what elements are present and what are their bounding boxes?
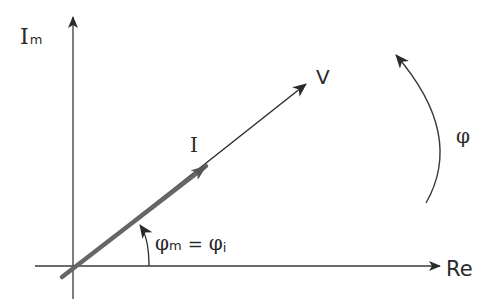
rotation-label: φ [456,124,470,148]
phase-angle-label: φm=φi [155,231,226,255]
voltage-label: V [316,65,330,89]
current-label: I [190,133,198,157]
real-axis-label: Re [446,257,473,281]
phase-angle-arc [140,225,149,266]
imaginary-axis-label: Im [20,24,42,49]
phasor-diagram: Im Re V I φ φm=φi [0,0,492,299]
rotation-arc [396,55,440,203]
current-phasor [62,166,206,277]
